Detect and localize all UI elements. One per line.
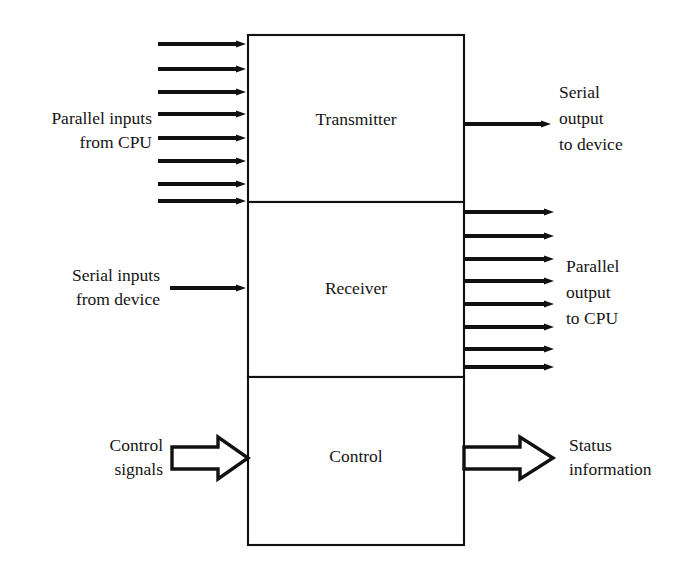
serial-output-line-2: output [559,108,604,128]
label-serial-output-to-device: Serial output to device [559,82,623,154]
label-serial-inputs-from-device: Serial inputs from device [72,265,160,309]
control-signals-block-arrow [172,437,248,479]
label-parallel-inputs-from-cpu: Parallel inputs from CPU [51,108,152,152]
control-label: Control [329,446,383,466]
control-signals-line-2: signals [114,459,163,479]
label-parallel-output-to-cpu: Parallel output to CPU [566,256,620,328]
status-information-line-2: information [569,459,652,479]
serial-output-line-3: to device [559,134,623,154]
parallel-output-line-1: Parallel [566,256,620,276]
transmitter-label: Transmitter [315,109,396,129]
block-transmitter: Transmitter [248,35,464,202]
status-information-line-1: Status [569,435,612,455]
uart-block-diagram: Transmitter Receiver Control [0,0,693,564]
label-control-signals: Control signals [110,435,164,479]
serial-inputs-line-2: from device [76,289,160,309]
serial-inputs-line-1: Serial inputs [72,265,160,285]
serial-output-line-1: Serial [559,82,600,102]
label-status-information: Status information [569,435,652,479]
parallel-output-line-3: to CPU [566,308,618,328]
parallel-inputs-line-1: Parallel inputs [51,108,152,128]
parallel-inputs-line-2: from CPU [80,132,153,152]
block-control: Control [248,377,464,545]
control-signals-line-1: Control [110,435,164,455]
receiver-label: Receiver [325,278,387,298]
diagram-canvas: Transmitter Receiver Control [0,0,693,564]
block-receiver: Receiver [248,202,464,377]
status-information-block-arrow [464,437,553,479]
parallel-output-bus [464,212,544,367]
parallel-input-bus [158,44,236,201]
parallel-output-line-2: output [566,282,611,302]
